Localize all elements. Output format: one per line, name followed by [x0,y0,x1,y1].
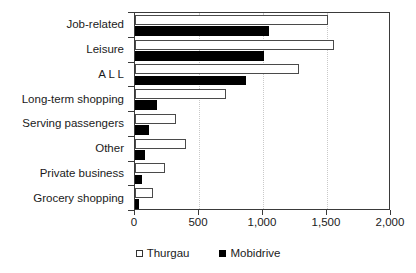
legend-label: Thurgau [147,247,190,260]
y-axis-label: Long-term shopping [22,93,124,105]
bar-group [135,186,389,211]
x-axis-tick [390,210,391,215]
bar-thurgau [135,89,226,99]
x-axis-label: 0 [131,216,137,229]
y-axis-label: Serving passengers [22,117,124,129]
bar-thurgau [135,64,299,74]
open-square-swatch [136,250,143,257]
bar-mobidrive [135,175,142,185]
bar-group [135,13,389,38]
bar-mobidrive [135,125,149,135]
bar-group [135,38,389,63]
y-axis-label: Grocery shopping [33,192,124,204]
y-axis-label: Job-related [66,18,124,30]
bar-mobidrive [135,100,157,110]
y-axis-label: Private business [40,167,124,179]
legend-entry: Mobidrive [219,247,280,260]
bar-mobidrive [135,150,145,160]
bar-mobidrive [135,76,246,86]
x-axis-label: 1,500 [312,216,341,229]
bar-thurgau [135,163,165,173]
legend-label: Mobidrive [230,247,280,260]
bar-mobidrive [135,51,264,61]
x-axis-tick [262,210,263,215]
y-axis-labels: Job-relatedLeisureA L LLong-term shoppin… [0,12,130,210]
bar-mobidrive [135,199,139,209]
bar-group [135,63,389,88]
y-axis-label: Other [95,142,124,154]
x-axis-labels: 05001,0001,5002,000 [0,216,416,232]
bar-group [135,137,389,162]
bar-group [135,162,389,187]
bar-mobidrive [135,26,269,36]
x-axis-tick [326,210,327,215]
legend-entry: Thurgau [136,247,190,260]
bar-thurgau [135,188,153,198]
bar-rows [135,13,389,209]
bar-thurgau [135,15,328,25]
x-axis-label: 2,000 [376,216,405,229]
x-axis-tick [134,210,135,215]
x-axis-label: 500 [188,216,207,229]
x-axis-label: 1,000 [248,216,277,229]
bar-thurgau [135,40,334,50]
y-axis-label: Leisure [86,43,124,55]
y-axis-label: A L L [98,68,124,80]
bar-thurgau [135,114,176,124]
x-axis-tick [198,210,199,215]
bar-group [135,112,389,137]
plot-area [134,12,390,210]
bar-group [135,87,389,112]
chart-legend: ThurgauMobidrive [0,243,416,263]
bar-thurgau [135,139,186,149]
bar-chart: Job-relatedLeisureA L LLong-term shoppin… [0,0,416,273]
filled-square-swatch [219,250,226,257]
